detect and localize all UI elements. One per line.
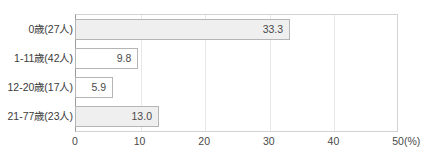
x-tick-label: 10 (134, 135, 146, 147)
x-tick-label: 0 (72, 135, 78, 147)
x-tick-label: 20 (198, 135, 210, 147)
x-axis: 01020304050 (75, 132, 398, 152)
category-axis-labels: 0歳(27人)1-11歳(42人)12-20歳(17人)21-77歳(23人) (0, 14, 73, 132)
bar: 13.0 (75, 106, 159, 127)
x-tick-label: 40 (328, 135, 340, 147)
x-axis-unit-label: (%) (404, 135, 420, 147)
bar-value-label: 9.8 (117, 53, 138, 64)
category-label: 1-11歳(42人) (1, 48, 73, 69)
bar-value-label: 5.9 (92, 82, 113, 93)
bar: 5.9 (75, 77, 113, 98)
x-tick-label: 30 (263, 135, 275, 147)
bar: 9.8 (75, 48, 138, 69)
category-label: 12-20歳(17人) (1, 77, 73, 98)
category-label: 0歳(27人) (1, 19, 73, 40)
category-label: 21-77歳(23人) (1, 106, 73, 127)
bar-row: 33.3 (75, 19, 398, 40)
bar-chart: 0歳(27人)1-11歳(42人)12-20歳(17人)21-77歳(23人) … (0, 0, 430, 160)
bar-row: 13.0 (75, 106, 398, 127)
bar-row: 9.8 (75, 48, 398, 69)
bar-row: 5.9 (75, 77, 398, 98)
bar-value-label: 13.0 (132, 111, 158, 122)
x-tick-label: 50 (392, 135, 404, 147)
bar-value-label: 33.3 (263, 24, 289, 35)
bar-series: 33.39.85.913.0 (75, 14, 398, 132)
bar: 33.3 (75, 19, 290, 40)
